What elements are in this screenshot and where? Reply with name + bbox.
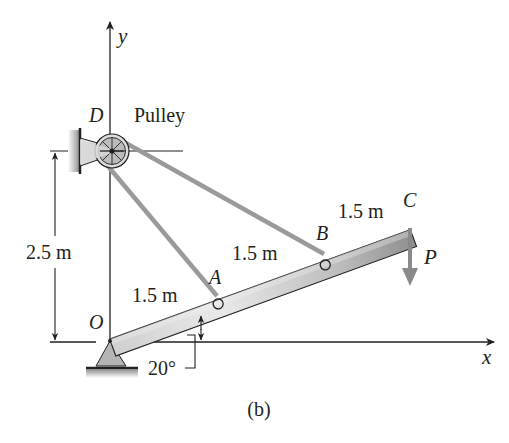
force-p-label: P (423, 245, 437, 269)
cable-db (124, 142, 324, 254)
angle-leader (185, 335, 195, 368)
pin-o (108, 339, 112, 343)
point-a-label: A (207, 266, 222, 288)
coordinate-axes: y x (50, 22, 494, 369)
beam-pulley-diagram: y x D Pulley 2.5 m (0, 0, 509, 443)
wall-mount (68, 130, 80, 172)
pulley-label: Pulley (134, 104, 185, 127)
point-c-label: C (403, 189, 417, 211)
x-axis-label: x (481, 345, 492, 369)
segment-ab-label: 1.5 m (232, 242, 278, 264)
ground-hatch (86, 369, 138, 378)
angle-label: 20° (148, 357, 176, 379)
force-p-arrowhead (402, 268, 418, 286)
height-dimension-label: 2.5 m (26, 241, 72, 263)
point-d-label: D (88, 104, 104, 126)
y-axis-label: y (116, 24, 128, 48)
point-o-label: O (89, 311, 103, 333)
segment-oa-label: 1.5 m (132, 284, 178, 306)
segment-bc-label: 1.5 m (338, 200, 384, 222)
height-dimension: 2.5 m (26, 153, 72, 340)
figure-caption: (b) (247, 398, 270, 421)
pulley-assembly: D Pulley (68, 104, 185, 174)
point-b-label: B (316, 222, 328, 244)
